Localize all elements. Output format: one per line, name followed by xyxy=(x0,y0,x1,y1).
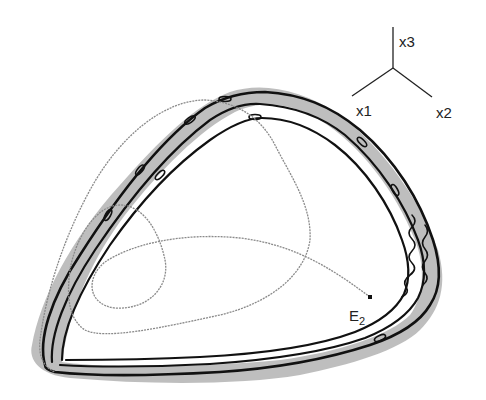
x2-axis-label: x2 xyxy=(436,104,452,121)
phase-space-figure: E2 x3 x1 x2 xyxy=(0,0,486,400)
x1-axis-label: x1 xyxy=(356,102,372,119)
equilibrium-point-e2: E2 xyxy=(349,295,372,327)
x3-axis-label: x3 xyxy=(399,33,415,50)
equilibrium-label: E2 xyxy=(349,307,365,327)
x1-axis-line xyxy=(352,68,393,96)
axes-triad xyxy=(352,27,432,97)
equilibrium-marker xyxy=(368,295,372,299)
x2-axis-line xyxy=(393,68,432,97)
